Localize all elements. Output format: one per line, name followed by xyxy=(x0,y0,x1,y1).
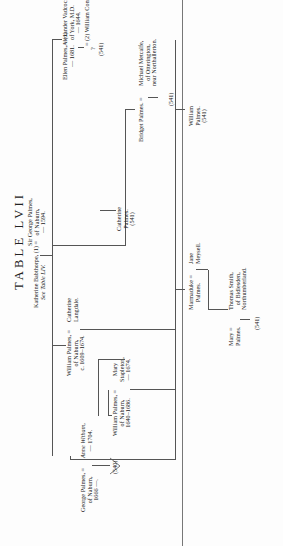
ellen-spouse-1: Alexander Vadcoc, of York, M.D. — 1644. xyxy=(62,0,82,46)
william-3-link xyxy=(108,390,109,416)
william-1-drop xyxy=(52,345,66,346)
mary-palmes: Mary = Palmes. xyxy=(228,327,241,346)
bridget-ref: (541) xyxy=(168,93,175,106)
william-3-marker: = xyxy=(111,390,118,394)
william-3-from-trunk xyxy=(98,359,125,360)
william-3-horiz xyxy=(98,360,99,416)
marmaduke-name-2: Palmes. xyxy=(195,275,202,310)
george-stem xyxy=(70,459,175,460)
stapleton-dates: — 1674. xyxy=(125,357,132,382)
mary-name-2: Palmes. xyxy=(235,327,242,346)
bridget-spouse: Michael Metcalfe, of Otterington, near N… xyxy=(138,39,158,86)
marmaduke-marker: = xyxy=(187,275,194,279)
generation-1-trunk xyxy=(52,40,53,456)
witham-dates: — 1704. xyxy=(87,423,94,458)
generation-2-link xyxy=(125,329,175,330)
catherine-tick xyxy=(100,210,116,211)
marmaduke-issue-line xyxy=(196,269,208,270)
george-spouse: Anne Witham, — 1704. xyxy=(80,423,93,458)
smith-place-2: Northumberland. xyxy=(241,268,248,310)
george-marker: = xyxy=(79,468,86,472)
catherine-drop xyxy=(52,245,125,246)
george-palmes: George Palmes, = of Naburn, 1666 —. xyxy=(80,468,100,512)
william-1-name: William Palmes, xyxy=(65,335,72,376)
constable-marker: = (2) xyxy=(83,34,90,46)
william-1-spouse: Catherine Langdale. xyxy=(66,297,79,322)
catherine-palmes: Catherine Palmes. (541) xyxy=(116,207,136,231)
metcalfe-place-2: near Northallerton. xyxy=(151,39,158,86)
william-3-palmes: William Palmes, = of Naburn, 1640–1686. xyxy=(112,390,132,436)
ellen-issue-line xyxy=(78,47,84,48)
george-dates: 1666 —. xyxy=(93,468,100,512)
bridget-stem-up xyxy=(125,109,135,110)
william-grandson: William Palmes. (541) xyxy=(188,106,208,126)
marmaduke-drop xyxy=(175,289,185,290)
langdale-name-2: Langdale. xyxy=(73,297,80,322)
ellen-spouse-2: = (2) William Constable. xyxy=(84,0,91,46)
george-ref: (540) xyxy=(112,461,119,474)
constable-name: William Constable. xyxy=(83,0,90,32)
bridget-marker: = xyxy=(137,97,144,101)
root-wife-name: Katherine Babthorpe, xyxy=(32,255,39,308)
william-1-marker: = xyxy=(65,330,72,334)
bridget-stem xyxy=(125,110,126,190)
bridget-issue-line xyxy=(148,97,158,98)
catherine-ref: (541) xyxy=(129,207,136,231)
ellen-name: Ellen Palmes, xyxy=(61,46,68,80)
mary-spouse: Thomas Smith, of Bidlesden, Northumberla… xyxy=(228,268,248,310)
vadcoc-dates: — 1644. xyxy=(75,0,82,46)
generation-2-trunk xyxy=(175,40,176,460)
william-grandson-ref: (541) xyxy=(201,106,208,126)
william-3-dates: 1640–1686. xyxy=(125,390,132,436)
william-3-issue-line xyxy=(130,389,175,390)
william-3-link-up xyxy=(108,415,112,416)
genealogy-table: TABLE LVII Katherine Babthorpe, (1) = Se… xyxy=(0,0,283,546)
root-husband: Sir George Palmes, of Naburn, — 1594. xyxy=(27,198,47,246)
marmaduke-name: Marmaduke xyxy=(187,280,194,310)
mary-marker: = xyxy=(227,328,234,332)
william-1-dates: c. 1609–1674. xyxy=(79,330,86,376)
william-1-issue-line xyxy=(80,329,125,330)
william-1-palmes: William Palmes, = of Naburn, c. 1609–167… xyxy=(66,330,86,376)
table-title: TABLE LVII xyxy=(12,192,27,290)
bridget-palmes: Bridget Palmes. = xyxy=(138,97,145,142)
ellen-issue: ? xyxy=(90,47,97,50)
meysell-name-2: Meysell. xyxy=(195,243,202,264)
mary-issue-line xyxy=(240,319,250,320)
george-name: George Palmes, xyxy=(79,473,86,512)
william-3-name: William Palmes, xyxy=(111,395,118,436)
marmaduke-spouse: Jane Meysell. xyxy=(188,243,201,264)
george-stem-top xyxy=(70,456,71,460)
root-husband-dates: — 1594. xyxy=(40,198,47,246)
root-descent-line xyxy=(40,255,52,256)
william-3-spouse: Mary Stapleton, — 1674. xyxy=(112,357,132,382)
mary-drop xyxy=(208,309,228,310)
root-wife-note: See Table LIV. xyxy=(40,265,47,300)
mary-ref: (541) xyxy=(254,317,261,330)
marmaduke-issue-link xyxy=(208,270,209,310)
book-page: TABLE LVII Katherine Babthorpe, (1) = Se… xyxy=(0,0,283,546)
marmaduke-palmes: Marmaduke = Palmes. xyxy=(188,275,201,310)
william-2-drop xyxy=(175,109,185,110)
mary-name: Mary xyxy=(227,333,234,346)
bridget-name: Bridget Palmes. xyxy=(137,102,144,142)
ellen-ref: (541) xyxy=(98,43,105,56)
